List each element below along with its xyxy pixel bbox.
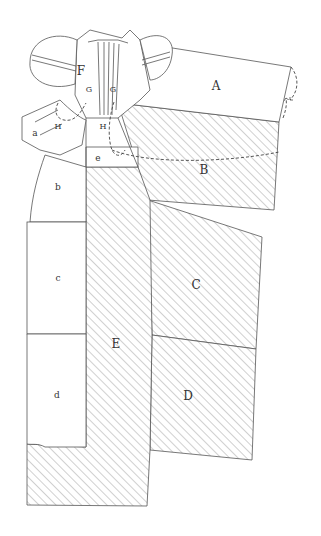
label-e: e: [95, 153, 100, 163]
label-G-left: G: [86, 85, 92, 94]
label-d: d: [54, 390, 60, 400]
label-E: E: [112, 337, 121, 351]
label-G-right: G: [110, 85, 116, 94]
pattern-diagram: A B C D E F G G H H a b c d e: [0, 0, 321, 536]
left-sleeve: [30, 36, 77, 86]
label-A: A: [211, 79, 221, 93]
label-D: D: [183, 389, 193, 403]
panel-D: [150, 335, 256, 460]
label-a: a: [32, 128, 38, 138]
label-B: B: [200, 163, 209, 177]
label-H-right: H: [100, 122, 107, 131]
label-C: C: [191, 278, 200, 292]
label-b: b: [55, 182, 61, 192]
label-F: F: [77, 64, 85, 78]
label-H-left: H: [55, 122, 62, 131]
label-c: c: [55, 273, 60, 283]
panel-C: [148, 200, 262, 349]
